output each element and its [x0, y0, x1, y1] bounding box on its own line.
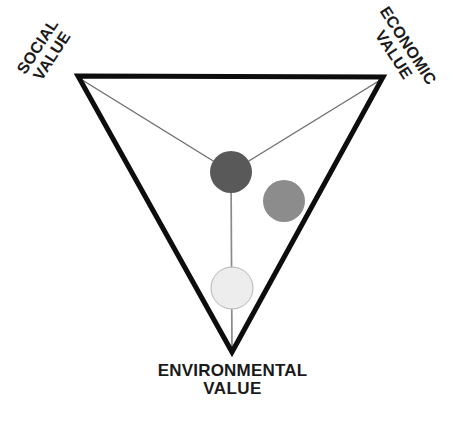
spoke-economic-icon: [231, 79, 382, 172]
spoke-group: [79, 78, 382, 351]
axis-label-environmental: ENVIRONMENTAL VALUE: [0, 362, 465, 399]
light-node: [211, 267, 253, 309]
spoke-social-icon: [79, 78, 231, 172]
center-node: [210, 151, 252, 193]
value-triangle-diagram: SOCIAL VALUE ECONOMIC VALUE ENVIRONMENTA…: [0, 0, 465, 430]
axis-label-environmental-line2: VALUE: [0, 380, 465, 398]
axis-label-environmental-line1: ENVIRONMENTAL: [0, 362, 465, 380]
spoke-environmental-icon: [231, 172, 232, 351]
mid-gray-node: [263, 180, 305, 222]
